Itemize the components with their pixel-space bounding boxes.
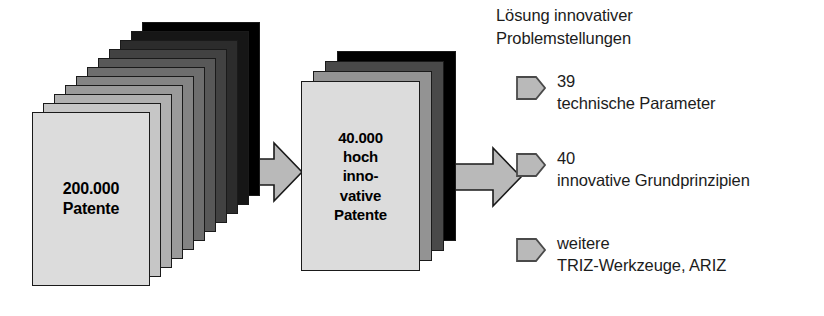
patent-sheet-front: 40.000 hoch inno- vative Patente [301, 81, 420, 271]
patent-stack-large: 200.000 Patente [32, 22, 260, 286]
patent-stack-label: 200.000 Patente [63, 179, 119, 220]
outcome-item-label: 40 innovative Grundprinzipien [557, 147, 750, 191]
outcome-item-weitere-triz-werkzeuge: weitere TRIZ-Werkzeuge, ARIZ [516, 232, 726, 276]
patent-sheet-front: 200.000 Patente [32, 112, 150, 286]
outcome-item-label: weitere TRIZ-Werkzeuge, ARIZ [557, 232, 726, 276]
outcomes-heading: Lösung innovativer Problemstellungen [496, 4, 633, 51]
patent-stack-label: 40.000 hoch inno- vative Patente [334, 128, 387, 224]
outcomes-column: Lösung innovativer Problemstellungen 39 … [496, 0, 824, 316]
outcome-item-innovative-grundprinzipien: 40 innovative Grundprinzipien [516, 147, 750, 191]
pentagon-bullet-icon [516, 152, 546, 178]
pentagon-bullet-icon [516, 75, 546, 101]
triz-funnel-diagram: 200.000 Patente 40.000 hoch inno- vative… [0, 0, 824, 316]
outcome-item-technische-parameter: 39 technische Parameter [516, 70, 716, 114]
patent-stack-small: 40.000 hoch inno- vative Patente [301, 51, 456, 271]
outcome-item-label: 39 technische Parameter [557, 70, 716, 114]
pentagon-bullet-icon [516, 237, 546, 263]
